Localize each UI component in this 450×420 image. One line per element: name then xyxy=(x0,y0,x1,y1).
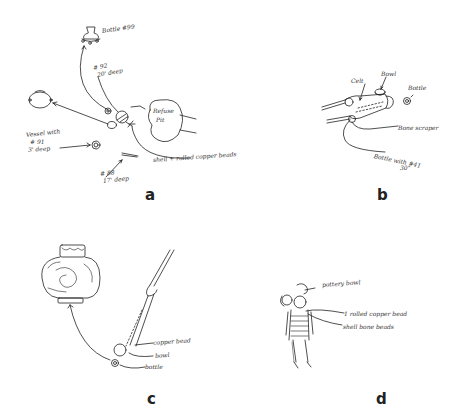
bottle-icon xyxy=(82,27,100,44)
panel-letter-c: c xyxy=(147,390,156,408)
label-bottle: bottle xyxy=(145,363,163,370)
label-bottle: Bottle xyxy=(408,84,426,91)
panel-d-drawing xyxy=(280,284,344,368)
vessel-icon xyxy=(29,91,52,109)
line-drawings xyxy=(0,0,450,420)
label-copper-bead: 1 rolled copper bead xyxy=(344,310,407,317)
decorated-pot-icon xyxy=(42,245,100,303)
label-bowl: bowl xyxy=(155,351,170,359)
label-celt: Celt xyxy=(351,77,363,84)
panel-b-drawing xyxy=(322,77,413,152)
label-refuse-pit: Pit xyxy=(156,116,164,123)
panel-letter-a: a xyxy=(145,186,155,204)
panel-letter-d: d xyxy=(376,390,387,408)
label-shell-beads: shell bone beads xyxy=(343,323,394,330)
panel-c-drawing xyxy=(42,245,174,368)
archaeology-figure: Bottle #99 # 92 20' deep Refuse Pit Vess… xyxy=(0,0,450,420)
label-scraper: Bone scraper xyxy=(398,124,439,131)
label-refuse-pit: Refuse xyxy=(153,107,174,114)
label-bowl: Bowl xyxy=(381,70,396,77)
panel-letter-b: b xyxy=(377,186,388,204)
label-depth: 30" xyxy=(400,164,410,171)
